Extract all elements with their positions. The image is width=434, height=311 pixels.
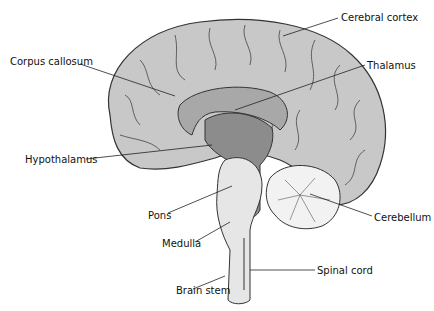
label-cerebral-cortex: Cerebral cortex xyxy=(341,12,418,24)
label-medulla: Medulla xyxy=(162,238,201,250)
brainstem-shape xyxy=(217,158,262,304)
brain-diagram: Cerebral cortex Corpus callosum Thalamus… xyxy=(0,0,434,311)
label-hypothalamus: Hypothalamus xyxy=(25,154,98,166)
label-spinal-cord: Spinal cord xyxy=(317,265,373,277)
label-corpus-callosum: Corpus callosum xyxy=(10,56,93,68)
label-brain-stem: Brain stem xyxy=(176,285,230,297)
label-thalamus: Thalamus xyxy=(367,60,416,72)
label-cerebellum: Cerebellum xyxy=(374,212,431,224)
cerebellum-shape xyxy=(266,165,340,228)
label-pons: Pons xyxy=(148,210,171,222)
